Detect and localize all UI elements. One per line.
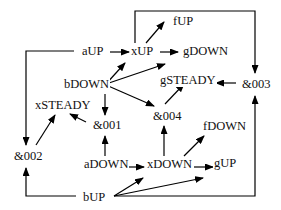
edge-amp004-gSTEADY: [165, 84, 184, 104]
edge-amp001-xSTEADY: [70, 114, 86, 122]
node-bUP: bUP: [82, 190, 106, 204]
node-amp001: &001: [92, 118, 122, 132]
edge-bUP-amp002: [26, 168, 76, 196]
node-amp002: &002: [13, 149, 43, 163]
edge-amp002-xSTEADY: [36, 115, 55, 145]
edge-bUP-amp003: [114, 96, 255, 196]
node-aUP: aUP: [81, 44, 105, 58]
node-amp003: &003: [241, 77, 271, 91]
node-gDOWN: gDOWN: [182, 44, 229, 58]
node-xSTEADY: xSTEADY: [34, 98, 92, 112]
node-aDOWN: aDOWN: [83, 157, 129, 171]
edge-bUP-gUP: [114, 178, 203, 196]
edge-xUP-fUP: [146, 22, 164, 43]
node-gSTEADY: gSTEADY: [159, 73, 217, 87]
edge-xUP-amp003: [135, 11, 255, 73]
node-bDOWN: bDOWN: [63, 77, 110, 91]
node-xUP: xUP: [130, 44, 154, 58]
node-amp004: &004: [152, 109, 182, 123]
node-fDOWN: fDOWN: [202, 119, 247, 133]
node-gUP: gUP: [213, 156, 237, 170]
node-xDOWN: xDOWN: [146, 157, 193, 171]
node-fUP: fUP: [172, 14, 194, 28]
graph-canvas: fUP aUP xUP gDOWN bDOWN gSTEADY &003 xST…: [0, 0, 281, 210]
edge-xDOWN-fDOWN: [184, 136, 204, 156]
edge-bDOWN-amp004: [106, 85, 154, 106]
